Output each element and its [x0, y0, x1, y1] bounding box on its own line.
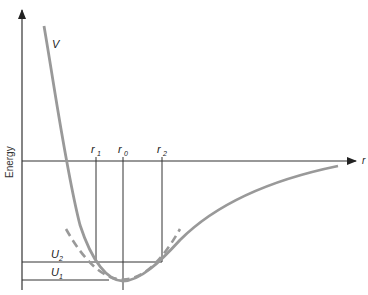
potential-energy-diagram: V r Energy r 1 r 0 r 2 U 2 U 1 — [0, 0, 368, 295]
level-u1: U 1 — [51, 266, 63, 280]
marker-r1: r 1 — [91, 143, 101, 157]
svg-text:r: r — [157, 143, 162, 155]
svg-text:2: 2 — [58, 255, 63, 262]
marker-r2: r 2 — [157, 143, 167, 157]
svg-text:U: U — [51, 266, 59, 278]
marker-r0: r 0 — [118, 143, 128, 157]
svg-text:1: 1 — [97, 150, 101, 157]
svg-text:r: r — [118, 143, 123, 155]
potential-curve — [44, 26, 338, 281]
energy-axis-label: Energy — [4, 146, 15, 178]
r-axis-label: r — [362, 155, 366, 166]
svg-text:0: 0 — [124, 150, 128, 157]
svg-text:1: 1 — [59, 273, 63, 280]
svg-text:r: r — [91, 143, 96, 155]
level-u2: U 2 — [51, 248, 63, 262]
svg-text:2: 2 — [162, 150, 167, 157]
curve-label: V — [52, 38, 61, 50]
svg-text:U: U — [51, 248, 59, 260]
